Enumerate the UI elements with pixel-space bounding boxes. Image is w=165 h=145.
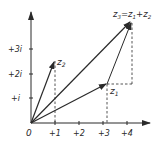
z3-equation-label: z3=z1+z2 (112, 9, 152, 20)
y-tick-label-2i: +2i (8, 70, 23, 79)
vector-z1 (31, 84, 106, 123)
origin-label: 0 (26, 128, 32, 138)
y-tick-label-i: +i (11, 94, 21, 103)
vector-z2-translated (107, 23, 131, 84)
z1-label: z1 (109, 86, 119, 97)
vector-z3 (31, 22, 130, 123)
vector-z2 (31, 62, 54, 123)
complex-addition-diagram: 0 +1 +2 +3 +4 +i +2i +3i z2 z1 z3=z1+z2 (0, 0, 165, 145)
y-tick-label-3i: +3i (8, 45, 23, 54)
z2-label: z2 (56, 57, 66, 68)
x-tick-label-2: +2 (73, 129, 85, 138)
x-tick-label-1: +1 (49, 129, 61, 138)
x-tick-label-4: +4 (121, 129, 133, 138)
dashed-guides (55, 22, 132, 123)
x-tick-label-3: +3 (98, 129, 110, 138)
